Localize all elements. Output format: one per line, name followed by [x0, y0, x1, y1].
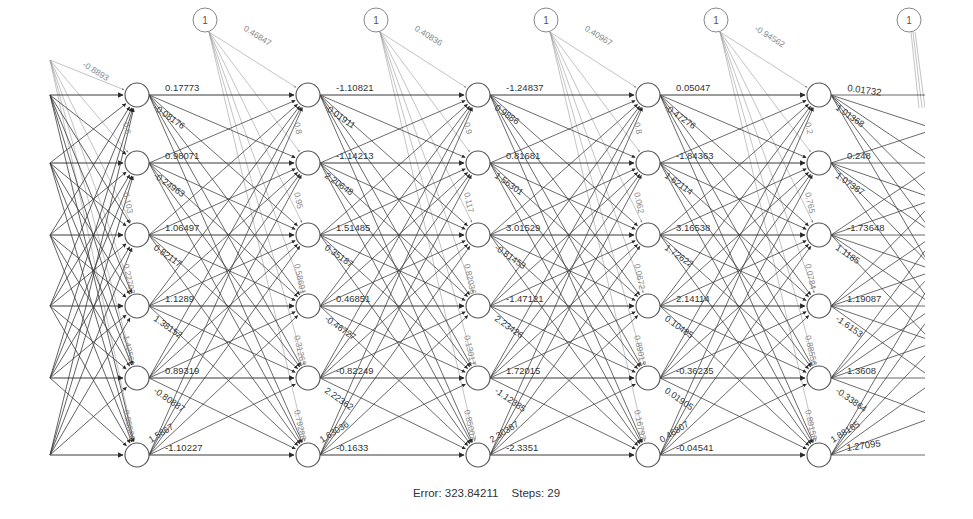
- weight-label: 0.9: [462, 121, 474, 135]
- weight-label: 0.35187: [323, 242, 355, 269]
- weight-label: 1.01368: [834, 102, 866, 129]
- weight-label: -0.04541: [676, 442, 714, 453]
- neuron: [296, 294, 320, 318]
- edge: [320, 95, 465, 157]
- edge: [550, 32, 636, 87]
- weight-label: 1.42561: [121, 334, 137, 366]
- error-value: Error: 323.84211: [413, 487, 498, 499]
- edge: [490, 95, 642, 442]
- edge: [209, 32, 305, 441]
- neuron: [466, 366, 490, 390]
- edge: [320, 316, 468, 455]
- edge: [660, 175, 812, 455]
- edge: [831, 163, 925, 227]
- weight-label: 1.51485: [336, 222, 370, 233]
- weight-label: 0.31263: [292, 334, 308, 366]
- weight-label: 0.765: [803, 191, 817, 214]
- neuron: [807, 223, 831, 247]
- neuron: [125, 223, 149, 247]
- weight-label: 0.2: [803, 121, 815, 135]
- weight-label: -1.14213: [336, 150, 374, 161]
- weight-label: 0.103: [121, 191, 135, 214]
- neuron: [296, 443, 320, 467]
- weight-label: 2.14114: [676, 293, 710, 304]
- weight-label: -0.8893: [81, 59, 111, 83]
- weight-label: 0.58691: [292, 263, 308, 295]
- edge: [831, 95, 925, 158]
- bias-node-label: 1: [373, 15, 379, 26]
- edge: [50, 60, 134, 441]
- edge: [380, 32, 473, 293]
- weight-label: -1.24837: [506, 82, 544, 93]
- weight-label: 0.8: [292, 121, 304, 135]
- weight-label: 0.89013: [632, 334, 648, 366]
- weight-label: 0.6: [121, 121, 133, 135]
- weight-label: 3.16538: [676, 222, 710, 233]
- weight-label: 1.72015: [506, 365, 540, 376]
- weight-label: -0.46727: [323, 313, 358, 342]
- weight-label: -0.01911: [323, 102, 357, 130]
- edge: [50, 60, 133, 364]
- weight-label: 0.0672: [632, 263, 647, 291]
- weight-label: 0.22703: [121, 263, 137, 295]
- edge: [380, 32, 475, 441]
- weight-label: 1.27095: [846, 437, 882, 453]
- weight-label: 0.85526: [121, 409, 137, 441]
- neuron: [807, 443, 831, 467]
- edge: [660, 95, 813, 442]
- edge: [380, 32, 466, 87]
- weight-label: -1.10227: [165, 442, 203, 453]
- weight-label: 1.3608: [847, 365, 876, 376]
- edge: [149, 95, 302, 442]
- edge: [50, 306, 130, 443]
- neuron: [636, 294, 660, 318]
- edge: [50, 315, 126, 378]
- weight-label: 1.62114: [663, 170, 695, 196]
- edge: [149, 95, 295, 157]
- edge: [720, 32, 816, 441]
- weight-label: 2.20648: [323, 170, 355, 197]
- neuron: [125, 294, 149, 318]
- edge: [209, 32, 296, 87]
- edge: [660, 95, 806, 157]
- edge: [490, 95, 635, 157]
- weight-label: 0.17773: [165, 82, 199, 93]
- neural-network-diagram: 11111 -0.88930.177730.980711.064971.1289…: [0, 0, 973, 519]
- weight-label: -0.24963: [152, 170, 187, 199]
- neuron: [807, 294, 831, 318]
- weight-label: 0.98071: [165, 150, 199, 161]
- weight-label: -0.81453: [493, 242, 528, 271]
- weight-label: -0.08176: [152, 102, 187, 131]
- training-summary: Error: 323.84211 Steps: 29: [0, 487, 973, 499]
- edge: [490, 378, 635, 449]
- edge: [490, 175, 641, 455]
- weight-label: 2.23426: [493, 313, 525, 340]
- weight-label: 0.46847: [242, 23, 274, 48]
- weight-label: 1.56301: [493, 170, 525, 197]
- neuron: [636, 366, 660, 390]
- bias-node-label: 1: [713, 15, 719, 26]
- weight-label: 0.0784: [803, 263, 818, 291]
- weight-label: 1.38152: [152, 313, 184, 340]
- neuron: [296, 151, 320, 175]
- bias-node-label: 1: [543, 15, 549, 26]
- edge: [50, 247, 130, 378]
- weight-label: 0.40836: [413, 23, 445, 48]
- neuron: [807, 366, 831, 390]
- neuron: [466, 151, 490, 175]
- edge: [50, 175, 130, 306]
- weight-label: 0.248: [847, 150, 871, 161]
- edge: [490, 244, 638, 378]
- edge: [831, 346, 925, 378]
- edge: [149, 175, 301, 455]
- neuron: [296, 83, 320, 107]
- edge: [831, 251, 925, 378]
- edge: [149, 378, 295, 449]
- edge: [550, 32, 645, 441]
- weight-label: 0.40967: [583, 23, 615, 48]
- weight-label: -0.82249: [336, 365, 374, 376]
- weight-label: -0.36235: [676, 365, 714, 376]
- weight-label: 1.06497: [165, 222, 199, 233]
- weight-label: 0.89319: [165, 365, 199, 376]
- edge: [550, 32, 643, 293]
